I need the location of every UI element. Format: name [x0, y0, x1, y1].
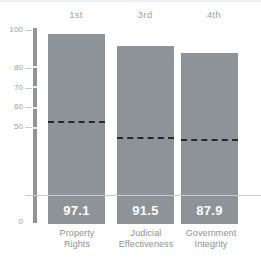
- category-label-line-1: Property: [42, 228, 112, 239]
- category-label-line-1: Government: [176, 228, 246, 239]
- ytick-label-50: 50: [0, 123, 23, 131]
- ytick-dash-80: [25, 68, 32, 69]
- rank-label-row: 1st 3rd 4th: [45, 8, 245, 24]
- ytick-dash-60: [25, 107, 32, 108]
- category-label-line-2: Rights: [42, 239, 112, 250]
- spine-segment-3: [33, 88, 37, 107]
- spine-segment-5: [33, 129, 37, 223]
- ytick-label-60: 60: [0, 103, 23, 111]
- bar-value-judicial-effectiveness: 91.5: [117, 203, 174, 218]
- ytick-label-70: 70: [0, 84, 23, 92]
- bar-chart: 1st 3rd 4th 100 80 70 60 50 0: [0, 0, 261, 262]
- category-label-judicial-effectiveness: Judicial Effectiveness: [111, 228, 181, 250]
- x-axis-baseline: [25, 195, 261, 196]
- category-label-property-rights: Property Rights: [42, 228, 112, 250]
- y-axis-spine: [33, 28, 37, 223]
- ytick-dash-100: [25, 30, 32, 31]
- reference-marker-judicial-effectiveness: [117, 137, 174, 139]
- category-label-line-2: Effectiveness: [111, 239, 181, 250]
- category-label-government-integrity: Government Integrity: [176, 228, 246, 250]
- reference-marker-property-rights: [48, 121, 105, 123]
- ytick-label-100: 100: [0, 26, 23, 34]
- ytick-dash-70: [25, 88, 32, 89]
- ytick-label-0: 0: [0, 218, 23, 226]
- ytick-label-80: 80: [0, 64, 23, 72]
- category-label-line-1: Judicial: [111, 228, 181, 239]
- spine-segment-4: [33, 109, 37, 127]
- bar-judicial-effectiveness[interactable]: 91.5: [117, 46, 174, 224]
- reference-marker-government-integrity: [181, 139, 238, 141]
- category-label-line-2: Integrity: [176, 239, 246, 250]
- spine-segment-1: [33, 28, 37, 66]
- top-divider: [0, 0, 261, 2]
- bar-value-government-integrity: 87.9: [181, 203, 238, 218]
- bar-value-property-rights: 97.1: [48, 203, 105, 218]
- spine-segment-2: [33, 68, 37, 86]
- rank-label-property-rights: 1st: [45, 8, 107, 22]
- rank-label-judicial-effectiveness: 3rd: [114, 8, 176, 22]
- rank-label-government-integrity: 4th: [183, 8, 245, 22]
- ytick-dash-50: [25, 127, 32, 128]
- category-label-row: Property Rights Judicial Effectiveness G…: [45, 228, 261, 260]
